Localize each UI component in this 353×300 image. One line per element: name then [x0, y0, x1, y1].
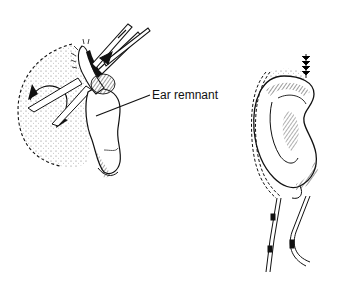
forceps-icon [92, 24, 150, 74]
figure-canvas: Ear remnant [0, 0, 353, 300]
drain-tubes [266, 196, 310, 272]
ear-remnant [86, 89, 120, 178]
ear-remnant-label: Ear remnant [152, 88, 218, 102]
left-illustration [0, 0, 353, 300]
reconstructed-ear [254, 54, 318, 198]
